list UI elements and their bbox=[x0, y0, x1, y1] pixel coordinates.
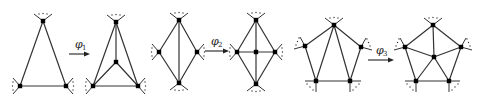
ellipsis-dot bbox=[281, 55, 282, 56]
ellipsis-dot bbox=[12, 85, 13, 86]
ellipsis-dot bbox=[229, 55, 230, 56]
ellipsis-dot bbox=[144, 81, 145, 82]
ellipsis-dot bbox=[174, 12, 175, 13]
ellipsis-dot bbox=[298, 37, 299, 38]
ellipsis-dot bbox=[12, 81, 13, 82]
phi3-before-node-top bbox=[332, 23, 336, 27]
ellipsis-dot bbox=[451, 89, 452, 90]
ellipsis-dot bbox=[178, 12, 179, 13]
phi2-before-edge-top-right bbox=[179, 20, 197, 52]
ellipsis-dot bbox=[454, 86, 455, 87]
ellipsis-dot bbox=[309, 86, 310, 87]
ellipsis-dot bbox=[358, 83, 359, 84]
ellipsis-dot bbox=[333, 17, 334, 18]
ellipsis-dot bbox=[329, 17, 330, 18]
phi3-before-edge-top-right bbox=[334, 25, 361, 47]
ellipsis-dot bbox=[406, 83, 407, 84]
ellipsis-dot bbox=[436, 17, 437, 18]
phi3-after-node-left bbox=[403, 45, 407, 49]
arrow-head-icon bbox=[84, 52, 90, 57]
phi2-after-node-bottom bbox=[254, 82, 258, 86]
ellipsis-dot bbox=[42, 13, 43, 14]
phi2-after-node-left bbox=[235, 50, 239, 54]
phi1-after-edge-top-bottom-left bbox=[93, 22, 116, 86]
phi2-before-node-top bbox=[177, 18, 181, 22]
ellipsis-dot bbox=[259, 90, 260, 91]
ellipsis-dot bbox=[395, 45, 396, 46]
phi1-after-node-center bbox=[114, 60, 118, 64]
ellipsis-dot bbox=[428, 17, 429, 18]
phi3-before-node-bottom-right bbox=[348, 79, 352, 83]
external-stubs-layer bbox=[12, 12, 472, 94]
ellipsis-dot bbox=[312, 89, 313, 90]
ellipsis-dot bbox=[282, 51, 283, 52]
phi3-before-node-left bbox=[303, 44, 307, 48]
phi1-before-edge-top-bottom-left bbox=[20, 21, 43, 86]
ellipsis-dot bbox=[297, 41, 298, 42]
ellipsis-dot bbox=[469, 45, 470, 46]
phi2-before-node-right bbox=[195, 50, 199, 54]
phi2-after-node-center bbox=[254, 50, 258, 54]
phi3-after-node-bottom-right bbox=[447, 79, 451, 83]
phi3-before-edge-top-bottom-right bbox=[334, 25, 350, 81]
phi3-before-edge-top-left bbox=[305, 25, 334, 46]
phi3-after-node-top bbox=[431, 23, 435, 27]
phi2-arrow: φ2 bbox=[205, 35, 229, 53]
ellipsis-dot bbox=[251, 90, 252, 91]
phi1-after-node-top bbox=[114, 20, 118, 24]
phi3-after-node-center bbox=[432, 55, 436, 59]
ellipsis-dot bbox=[255, 91, 256, 92]
ellipsis-dot bbox=[251, 12, 252, 13]
phi3-before-edge-right-bottom-right bbox=[350, 47, 361, 81]
phi2-after-edge-top-left bbox=[237, 20, 256, 52]
ellipsis-dot bbox=[46, 13, 47, 14]
ellipsis-dot bbox=[259, 12, 260, 13]
phi3-after-node-right bbox=[459, 45, 463, 49]
ellipsis-dot bbox=[38, 13, 39, 14]
ellipsis-dot bbox=[178, 90, 179, 91]
ellipsis-dot bbox=[255, 12, 256, 13]
phi2-after-edge-left-bottom bbox=[237, 52, 256, 84]
phi3-before-node-right bbox=[359, 45, 363, 49]
phi3-after-edge-center-bottom-left bbox=[416, 57, 434, 81]
phi1-after-edge-center-bottom-right bbox=[116, 62, 138, 86]
ellipsis-dot bbox=[355, 86, 356, 87]
ellipsis-dot bbox=[182, 12, 183, 13]
phi3-label-subscript: 3 bbox=[383, 50, 387, 58]
phi3-after-edge-top-right bbox=[433, 25, 461, 47]
phi1-after-node-bottom-right bbox=[136, 84, 140, 88]
ellipsis-dot bbox=[85, 81, 86, 82]
phi3-after-edge-left-bottom-left bbox=[405, 47, 416, 81]
ellipsis-dot bbox=[203, 47, 204, 48]
ellipsis-dot bbox=[12, 89, 13, 90]
ellipsis-dot bbox=[412, 89, 413, 90]
ellipsis-dot bbox=[151, 55, 152, 56]
phi2-after-edge-top-right bbox=[256, 20, 275, 52]
phi3-after-edge-top-left bbox=[405, 25, 433, 47]
ellipsis-dot bbox=[295, 44, 296, 45]
ellipsis-dot bbox=[151, 47, 152, 48]
phi1-before-edge-top-bottom-right bbox=[43, 21, 66, 86]
ellipsis-dot bbox=[368, 42, 369, 43]
ellipsis-dot bbox=[468, 42, 469, 43]
phi2-label-subscript: 2 bbox=[218, 41, 222, 49]
ellipsis-dot bbox=[397, 42, 398, 43]
ellipsis-dot bbox=[432, 17, 433, 18]
ellipsis-dot bbox=[352, 89, 353, 90]
phi1-before-node-bottom-left bbox=[18, 84, 22, 88]
ellipsis-dot bbox=[337, 17, 338, 18]
phi3-after-edge-center-right bbox=[434, 47, 461, 57]
ellipsis-dot bbox=[182, 89, 183, 90]
phi3-after-edge-right-bottom-right bbox=[449, 47, 461, 81]
ellipsis-dot bbox=[73, 85, 74, 86]
phi2-before-edge-top-left bbox=[159, 20, 179, 52]
ellipsis-dot bbox=[119, 14, 120, 15]
arrow-head-icon bbox=[388, 58, 394, 63]
phi2-after-node-right bbox=[273, 50, 277, 54]
arrow-head-icon bbox=[223, 49, 229, 54]
phi1-before-node-bottom-right bbox=[64, 84, 68, 88]
ellipsis-dot bbox=[145, 85, 146, 86]
ellipsis-dot bbox=[369, 45, 370, 46]
phi2-before-edge-left-bottom bbox=[159, 52, 179, 83]
ellipsis-dot bbox=[72, 89, 73, 90]
